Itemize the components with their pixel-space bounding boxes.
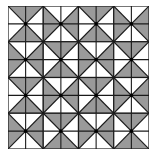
center-dot: [130, 94, 134, 98]
tile-block: [43, 113, 78, 149]
tile-block: [8, 78, 43, 114]
center-dot: [130, 129, 134, 133]
tile-block: [43, 42, 78, 78]
center-dot: [94, 22, 98, 26]
center-dot: [130, 22, 134, 26]
tile-block: [8, 6, 43, 42]
hourglass-tiling-diagram: [8, 6, 149, 149]
tile-block: [43, 6, 78, 42]
tile-block: [79, 6, 114, 42]
center-dot: [94, 58, 98, 62]
center-dot: [24, 22, 28, 26]
center-dot: [24, 129, 28, 133]
center-dot: [24, 94, 28, 98]
center-dot: [59, 58, 63, 62]
center-dot: [59, 94, 63, 98]
tile-block: [114, 113, 149, 149]
center-dot: [59, 129, 63, 133]
center-dot: [130, 58, 134, 62]
center-dot: [94, 94, 98, 98]
tiling-svg: [8, 6, 149, 149]
tile-block: [79, 113, 114, 149]
center-dot: [94, 129, 98, 133]
tile-block: [114, 78, 149, 114]
tile-block: [8, 113, 43, 149]
tile-block: [79, 78, 114, 114]
tile-block: [79, 42, 114, 78]
center-dot: [59, 22, 63, 26]
tile-block: [114, 42, 149, 78]
tile-block: [8, 42, 43, 78]
tile-block: [114, 6, 149, 42]
center-dot: [24, 58, 28, 62]
tile-block: [43, 78, 78, 114]
